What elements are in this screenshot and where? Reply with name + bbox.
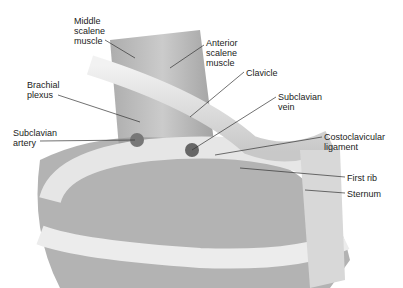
label-costoclavicular-ligament: Costoclavicular ligament	[324, 132, 385, 152]
label-first-rib: First rib	[347, 173, 377, 183]
label-subclavian-artery: Subclavian artery	[13, 128, 57, 148]
label-clavicle: Clavicle	[246, 68, 278, 78]
label-brachial-plexus: Brachial plexus	[27, 80, 60, 100]
label-subclavian-vein: Subclavian vein	[278, 92, 322, 112]
label-sternum: Sternum	[347, 189, 381, 199]
label-middle-scalene: Middle scalene muscle	[74, 16, 105, 46]
anatomy-diagram: Middle scalene muscleAnterior scalene mu…	[0, 0, 403, 288]
label-anterior-scalene: Anterior scalene muscle	[206, 38, 238, 68]
